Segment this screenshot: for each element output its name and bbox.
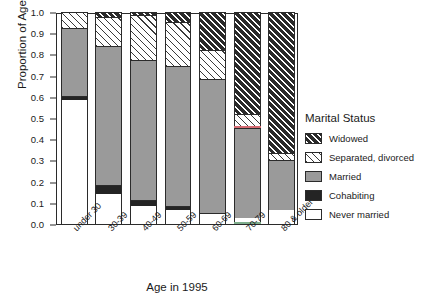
bar-segment-separated-divorced[interactable] (268, 153, 295, 160)
bar-top-edge (165, 12, 192, 13)
legend-swatch-separated-divorced-icon (305, 152, 322, 163)
legend-item-label: Cohabiting (329, 190, 374, 201)
bar-segment-widowed[interactable] (268, 12, 295, 153)
bar-top-edge (199, 12, 226, 13)
legend-entries: WidowedSeparated, divorcedMarriedCohabit… (305, 133, 431, 220)
legend-item-never[interactable]: Never married (305, 209, 431, 220)
legend-item-cohabiting[interactable]: Cohabiting (305, 190, 431, 201)
bar-40-49[interactable] (130, 12, 157, 224)
legend-swatch-never-icon (305, 209, 322, 220)
legend-swatch-married-icon (305, 171, 322, 182)
bar-under-30[interactable] (61, 12, 88, 224)
y-tick-label: 0.1 (20, 199, 44, 209)
y-tick-label: 0.3 (20, 157, 44, 167)
bar-segment-cohabiting[interactable] (130, 200, 157, 206)
y-tick-label: 0.5 (20, 114, 44, 124)
bar-segment-artifact-line (234, 126, 261, 128)
bar-segment-married[interactable] (61, 28, 88, 96)
y-tick-label: 0.0 (20, 220, 44, 230)
bar-top-edge (95, 12, 122, 13)
bar-segment-separated-divorced[interactable] (165, 22, 192, 67)
bar-segment-widowed[interactable] (199, 12, 226, 50)
y-axis-tick-labels: 0.00.10.20.30.40.50.60.70.80.91.0 (20, 0, 44, 307)
legend-swatch-cohabiting-icon (305, 190, 322, 201)
bar-segment-separated-divorced[interactable] (199, 50, 226, 79)
bar-segment-married[interactable] (234, 128, 261, 218)
bar-segment-separated-divorced[interactable] (61, 12, 88, 28)
y-tick-label: 0.4 (20, 135, 44, 145)
bar-70-79[interactable] (234, 12, 261, 224)
legend-item-label: Never married (329, 209, 389, 220)
legend-swatch-widowed-icon (305, 133, 322, 144)
y-tick-label: 0.9 (20, 29, 44, 39)
bar-top-edge (130, 12, 157, 13)
y-tick-label: 0.6 (20, 93, 44, 103)
legend: Marital Status WidowedSeparated, divorce… (305, 112, 431, 228)
bar-top-edge (234, 12, 261, 13)
x-axis-label: Age in 1995 (56, 281, 298, 293)
bar-segment-widowed[interactable] (165, 12, 192, 22)
x-axis-tick-labels: under 3030-3940-4950-5960-6970-7980 & ol… (56, 226, 298, 280)
y-tick-label: 0.7 (20, 72, 44, 82)
y-tick-label: 0.8 (20, 51, 44, 61)
bar-segment-married[interactable] (130, 60, 157, 200)
stacked-bar-chart-figure: Proportion of Age Group 0.00.10.20.30.40… (0, 0, 432, 307)
legend-item-label: Widowed (329, 133, 368, 144)
legend-title: Marital Status (305, 112, 431, 124)
bar-segment-married[interactable] (165, 66, 192, 206)
legend-item-label: Separated, divorced (329, 152, 414, 163)
bar-segment-cohabiting[interactable] (61, 96, 88, 100)
bar-top-edge (61, 12, 88, 13)
bar-segment-married[interactable] (199, 79, 226, 213)
legend-item-separated-divorced[interactable]: Separated, divorced (305, 152, 431, 163)
bar-segment-cohabiting[interactable] (165, 206, 192, 210)
y-axis-label-container: Proportion of Age Group (2, 5, 20, 233)
bar-segment-married[interactable] (268, 160, 295, 210)
bar-30-39[interactable] (95, 12, 122, 224)
plot-area (56, 13, 298, 225)
bar-top-edge (268, 12, 295, 13)
bar-segment-cohabiting[interactable] (95, 185, 122, 194)
bar-segment-separated-divorced[interactable] (95, 17, 122, 46)
bar-segment-separated-divorced[interactable] (130, 15, 157, 60)
bar-segment-widowed[interactable] (234, 12, 261, 114)
bar-60-69[interactable] (199, 12, 226, 224)
bar-segment-never[interactable] (61, 100, 88, 224)
legend-item-widowed[interactable]: Widowed (305, 133, 431, 144)
bar-50-59[interactable] (165, 12, 192, 224)
y-tick-label: 0.2 (20, 178, 44, 188)
bar-segment-married[interactable] (95, 46, 122, 185)
legend-item-label: Married (329, 171, 361, 182)
legend-item-married[interactable]: Married (305, 171, 431, 182)
bar-80-older[interactable] (268, 12, 295, 224)
y-tick-label: 1.0 (20, 8, 44, 18)
